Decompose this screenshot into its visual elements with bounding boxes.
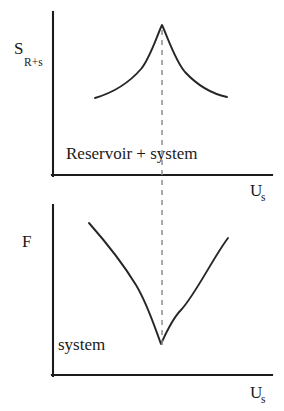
- bottom-panel-y-axis-label: F: [22, 232, 31, 251]
- bottom-panel-annotation: system: [58, 335, 105, 354]
- bottom-panel-x-axis-label-subscript: s: [261, 393, 266, 405]
- top-panel-y-axis-label-subscript: R+s: [24, 56, 43, 68]
- bottom-panel-curve-free-energy: [89, 223, 228, 344]
- top-panel-y-axis-label: S: [14, 39, 23, 58]
- top-panel-x-axis-label-subscript: s: [261, 191, 266, 203]
- top-panel-curve-entropy: [95, 25, 227, 98]
- bottom-panel: F U s system: [22, 205, 272, 405]
- top-panel: S R+s U s Reservoir + system: [14, 12, 272, 203]
- figure-root: S R+s U s Reservoir + system F U s syste…: [0, 0, 284, 411]
- top-panel-annotation: Reservoir + system: [66, 144, 197, 163]
- thermodynamics-figure: S R+s U s Reservoir + system F U s syste…: [0, 0, 284, 411]
